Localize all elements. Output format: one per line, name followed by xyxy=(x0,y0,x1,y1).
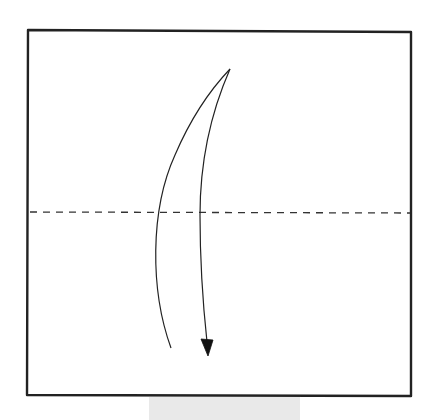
paper-square xyxy=(27,30,411,396)
origami-diagram: Valley fold the square in half, folding … xyxy=(0,0,427,420)
fold-diagram-canvas xyxy=(0,0,427,420)
